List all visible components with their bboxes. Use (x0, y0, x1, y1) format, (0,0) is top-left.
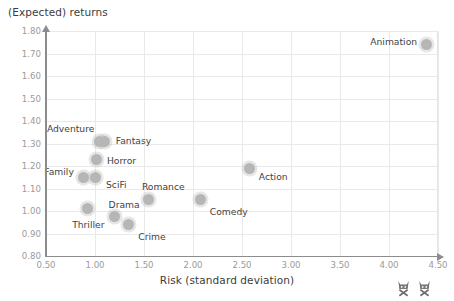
data-point-label: Drama (109, 199, 140, 210)
data-point-label: Action (259, 171, 288, 182)
grid-line-horizontal (46, 121, 438, 122)
y-axis-tick-label: 1.70 (1, 49, 41, 59)
y-axis-tick-label: 0.90 (1, 229, 41, 239)
grid-line-horizontal (46, 99, 438, 100)
y-axis-tick-label: 0.80 (1, 251, 41, 261)
y-axis-tick-label: 1.00 (1, 206, 41, 216)
scatter-chart: (Expected) returns Risk (standard deviat… (0, 0, 454, 301)
data-point[interactable] (244, 163, 255, 174)
x-axis-tick-label: 2.50 (232, 260, 251, 270)
grid-line-horizontal (46, 189, 438, 190)
grid-line-horizontal (46, 31, 438, 32)
data-point[interactable] (91, 154, 102, 165)
data-point[interactable] (143, 194, 154, 205)
grid-line-horizontal (46, 76, 438, 77)
data-point[interactable] (421, 39, 432, 50)
x-axis-tick-label: 4.50 (428, 260, 447, 270)
cat-face-icon (417, 278, 432, 297)
x-axis-tick-label: 3.50 (330, 260, 349, 270)
x-axis-line (45, 256, 439, 258)
plot-area: AnimationActionComedyRomanceAdventureFan… (46, 31, 438, 256)
data-point[interactable] (109, 211, 120, 222)
data-point-label: Crime (138, 231, 165, 242)
x-axis-tick-label: 1.50 (134, 260, 153, 270)
data-point-label: Family (44, 166, 74, 177)
y-axis-tick-label: 1.60 (1, 71, 41, 81)
data-point-label: Thriller (72, 219, 104, 230)
x-axis-title: Risk (standard deviation) (0, 274, 454, 286)
grid-line-vertical (438, 31, 439, 256)
y-axis-line (45, 31, 47, 257)
data-point[interactable] (195, 194, 206, 205)
x-axis-tick-label: 0.50 (36, 260, 55, 270)
data-point[interactable] (90, 172, 101, 183)
grid-line-horizontal (46, 54, 438, 55)
y-axis-tick-labels: 0.800.901.001.101.201.301.401.501.601.70… (0, 0, 41, 301)
data-point-label: SciFi (106, 179, 127, 190)
x-axis-tick-label: 3.00 (281, 260, 300, 270)
y-axis-tick-label: 1.40 (1, 116, 41, 126)
data-point-label: Animation (370, 36, 417, 47)
y-axis-tick-label: 1.10 (1, 184, 41, 194)
data-point[interactable] (82, 203, 93, 214)
y-axis-arrow-icon (42, 25, 50, 32)
y-axis-tick-label: 1.20 (1, 161, 41, 171)
data-point[interactable] (123, 219, 134, 230)
grid-line-horizontal (46, 234, 438, 235)
grid-line-horizontal (46, 166, 438, 167)
data-point-label: Fantasy (116, 135, 151, 146)
cat-face-icon (396, 278, 411, 297)
y-axis-tick-label: 1.30 (1, 139, 41, 149)
data-point[interactable] (78, 172, 89, 183)
y-axis-tick-label: 1.80 (1, 26, 41, 36)
data-point-label: Comedy (210, 206, 248, 217)
data-point-label: Adventure (47, 123, 95, 134)
corner-decorations (396, 278, 432, 297)
x-axis-tick-label: 2.00 (183, 260, 202, 270)
data-point-label: Horror (107, 155, 136, 166)
x-axis-tick-label: 1.00 (85, 260, 104, 270)
data-point-label: Romance (142, 181, 185, 192)
y-axis-tick-label: 1.50 (1, 94, 41, 104)
data-point[interactable] (99, 136, 110, 147)
x-axis-tick-label: 4.00 (379, 260, 398, 270)
